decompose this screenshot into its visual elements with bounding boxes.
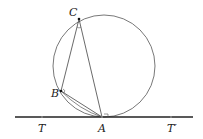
point-B xyxy=(60,90,63,93)
label-B: B xyxy=(50,87,59,100)
label-T: T xyxy=(38,122,47,135)
geometry-diagram: C B A T T′ xyxy=(0,0,203,139)
point-A xyxy=(101,116,103,118)
label-T-prime: T′ xyxy=(167,122,177,135)
segment-CB xyxy=(61,19,79,91)
point-C xyxy=(78,18,81,21)
segment-BA xyxy=(61,91,102,117)
label-A: A xyxy=(97,122,106,135)
angle-mark-C xyxy=(77,27,81,28)
segment-CA xyxy=(79,19,102,117)
point-T-prime xyxy=(170,116,172,118)
circumcircle xyxy=(53,15,155,117)
point-T xyxy=(41,116,43,118)
label-C: C xyxy=(69,6,78,19)
